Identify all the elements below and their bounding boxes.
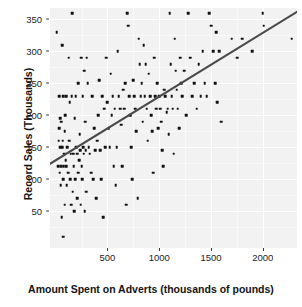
y-axis-title: Record Sales (Thousands) xyxy=(22,44,34,224)
regression-line xyxy=(50,8,297,248)
x-axis-title: Amount Spent on Adverts (thousands of po… xyxy=(0,283,302,295)
x-axis-tick-label: 1500 xyxy=(200,252,221,263)
regression-line-segment xyxy=(50,12,297,164)
x-axis-tick-mark xyxy=(107,248,108,251)
y-axis-tick-mark xyxy=(46,19,49,20)
y-axis-tick-mark xyxy=(46,210,49,211)
x-axis-tick-label: 2000 xyxy=(252,252,273,263)
y-axis-tick-mark xyxy=(46,51,49,52)
x-axis-tick-label: 1000 xyxy=(149,252,170,263)
y-axis-tick-label: 350 xyxy=(26,14,42,25)
x-axis-tick-mark xyxy=(263,248,264,251)
x-axis-tick-label: 500 xyxy=(100,252,116,263)
y-axis-tick-mark xyxy=(46,179,49,180)
scatterplot-figure: 50100150200250300350 Record Sales (Thous… xyxy=(0,0,302,307)
plot-panel xyxy=(50,8,297,248)
y-axis-tick-mark xyxy=(46,83,49,84)
x-axis-tick-mark xyxy=(211,248,212,251)
y-axis-tick-mark xyxy=(46,147,49,148)
y-axis-tick-mark xyxy=(46,115,49,116)
x-axis-tick-mark xyxy=(159,248,160,251)
